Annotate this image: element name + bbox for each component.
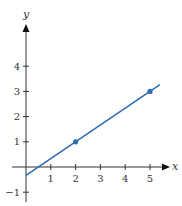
- y-tick-label: 4: [14, 61, 20, 72]
- x-axis-arrow-icon: [162, 164, 170, 171]
- data-point: [73, 139, 78, 144]
- x-tick-label: 2: [72, 173, 78, 184]
- data-point: [147, 89, 152, 94]
- axis-labels: y x: [22, 8, 179, 173]
- x-tick-label: 3: [97, 173, 103, 184]
- y-axis-label: y: [22, 8, 30, 21]
- y-tick-label: 3: [14, 86, 20, 97]
- x-tick-label: 4: [122, 173, 128, 184]
- ticks: 12345−11234: [5, 61, 153, 198]
- y-tick-label: −1: [5, 187, 20, 198]
- y-tick-label: 2: [14, 111, 20, 122]
- x-tick-label: 1: [48, 173, 54, 184]
- coordinate-plane: 12345−11234 y x: [0, 0, 182, 206]
- x-tick-label: 5: [147, 173, 153, 184]
- data-line: [26, 85, 160, 176]
- x-axis-label: x: [172, 160, 179, 173]
- y-axis-arrow-icon: [23, 24, 30, 32]
- y-tick-label: 1: [14, 136, 20, 147]
- data-series: [26, 85, 160, 176]
